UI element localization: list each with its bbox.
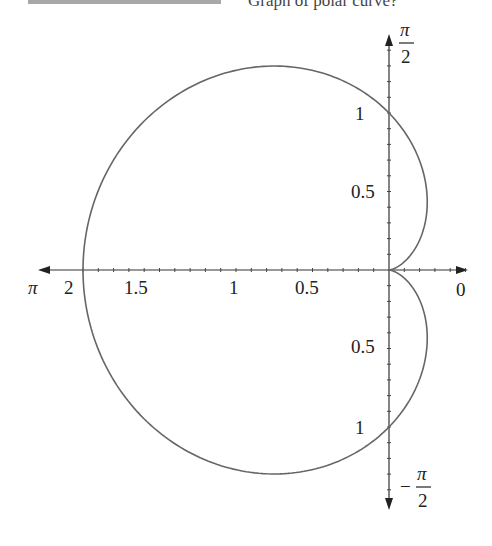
x-tick-label-1.5: 1.5 bbox=[124, 277, 148, 298]
y-tick-label-1-top: 1 bbox=[355, 103, 365, 124]
svg-text:−: − bbox=[400, 476, 411, 497]
y-tick-label-1-bottom: 1 bbox=[355, 417, 365, 438]
arrow-left-icon bbox=[38, 266, 50, 274]
y-tick-label-0.5-bottom: 0.5 bbox=[351, 336, 375, 357]
arrow-right-icon bbox=[456, 266, 468, 274]
y-tick-label-0.5-top: 0.5 bbox=[351, 181, 375, 202]
arrow-down-icon bbox=[385, 498, 393, 510]
x-tick-label-0.5: 0.5 bbox=[295, 277, 319, 298]
svg-text:2: 2 bbox=[418, 490, 428, 511]
x-tick-label-1: 1 bbox=[229, 277, 239, 298]
arrow-up-icon bbox=[385, 34, 393, 46]
svg-text:π: π bbox=[400, 19, 410, 40]
label-zero: 0 bbox=[456, 279, 466, 300]
polar-plot: π 0 π 2 − π 2 2 1.5 1 0.5 1 0.5 0.5 1 bbox=[0, 0, 492, 546]
svg-text:π: π bbox=[417, 463, 427, 484]
svg-text:2: 2 bbox=[401, 46, 411, 67]
axis-arrows bbox=[38, 34, 468, 510]
label-minus-pi-over-2: − π 2 bbox=[400, 463, 431, 511]
label-pi-over-2: π 2 bbox=[399, 19, 414, 67]
x-tick-label-2: 2 bbox=[64, 277, 74, 298]
axes bbox=[44, 40, 462, 504]
label-pi: π bbox=[28, 277, 38, 298]
